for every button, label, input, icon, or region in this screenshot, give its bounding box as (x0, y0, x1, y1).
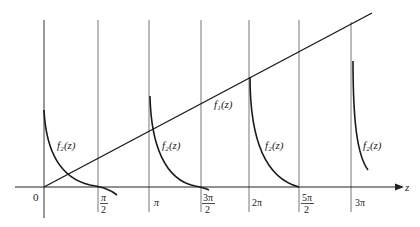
f1-line (44, 13, 372, 187)
f2-label-2: f₂(z) (162, 139, 181, 152)
axis-arrow-icon (395, 184, 404, 191)
tick-pi: π (154, 197, 160, 208)
f2-label-1: f₂(z) (57, 139, 76, 152)
tick-3pi-2-den: 2 (205, 204, 210, 215)
f2-branches (44, 61, 368, 195)
tick-2pi: 2π (252, 197, 262, 208)
tick-3pi-2-num: 3π (203, 192, 213, 203)
f2-label-3: f₂(z) (265, 139, 284, 152)
tick-pi-2-den: 2 (101, 204, 106, 215)
tick-5pi-2-num: 5π (302, 192, 312, 203)
tick-pi-2-num: π (101, 192, 107, 203)
f2-branch-3 (250, 77, 299, 187)
f2-label-4: f₂(z) (363, 139, 382, 152)
tick-labels: π 2 π 3π 2 2π 5π 2 3π (100, 192, 365, 215)
tick-5pi-2-den: 2 (304, 204, 309, 215)
vertical-lines (44, 20, 351, 218)
z-axis-label: z (404, 181, 410, 193)
f2-branch-1 (44, 110, 117, 195)
origin-label: 0 (33, 191, 39, 203)
graph-svg: f₂(z) f₂(z) f₂(z) f₂(z) f₁(z) 0 z π 2 π … (0, 0, 420, 227)
tick-3pi: 3π (355, 197, 365, 208)
f1-label: f₁(z) (214, 98, 233, 111)
f2-branch-4 (353, 61, 368, 170)
diagram-canvas: f₂(z) f₂(z) f₂(z) f₂(z) f₁(z) 0 z π 2 π … (0, 0, 420, 227)
